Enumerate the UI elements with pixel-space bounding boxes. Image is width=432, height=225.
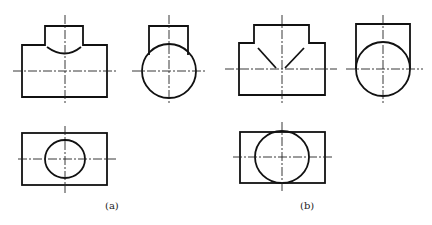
caption-a: (a): [105, 200, 119, 211]
panel-b: [225, 15, 423, 192]
side-view-b: [346, 15, 423, 104]
panel-a: [13, 15, 207, 193]
front-view-a: [13, 15, 116, 105]
intersection-line-left-b: [258, 48, 276, 68]
caption-b: (b): [300, 200, 314, 211]
tee-projection-drawing: [0, 0, 432, 225]
intersection-arc-a: [47, 47, 81, 54]
intersection-line-right-b: [285, 48, 304, 68]
top-view-b-rect: [240, 132, 325, 183]
side-view-a-branch: [149, 26, 188, 55]
front-view-b: [225, 15, 337, 104]
front-view-a-outline: [22, 26, 107, 97]
side-view-a: [132, 15, 207, 105]
top-view-a: [18, 126, 116, 193]
top-view-b: [233, 122, 333, 192]
